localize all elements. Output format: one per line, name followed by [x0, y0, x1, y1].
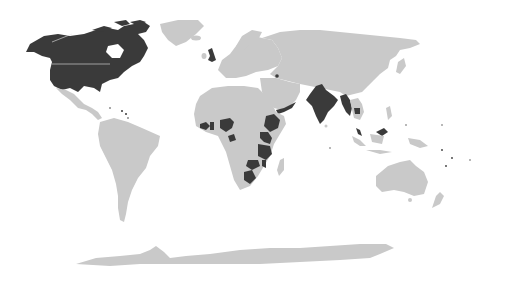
region-sri-lanka — [325, 125, 328, 128]
region-new-guinea — [408, 138, 428, 148]
region-iceland — [191, 36, 201, 41]
world-map — [0, 0, 508, 281]
region-japan — [396, 58, 406, 74]
region-uk[interactable] — [208, 48, 216, 62]
region-australia — [376, 160, 428, 196]
pacific-islands — [329, 124, 470, 167]
region-armenia[interactable] — [275, 74, 279, 78]
region-south-america — [98, 118, 160, 222]
region-antarctica — [76, 244, 394, 266]
region-philippines — [386, 106, 392, 120]
region-indonesia — [352, 134, 392, 154]
region-ireland — [202, 53, 207, 59]
region-mexico-central-america — [56, 88, 102, 120]
region-ghana[interactable] — [210, 122, 214, 130]
region-new-zealand — [432, 192, 444, 208]
caribbean-islands — [109, 107, 129, 119]
region-madagascar — [277, 158, 284, 176]
region-tasmania — [408, 198, 412, 202]
region-canada-usa[interactable] — [26, 22, 150, 92]
region-myanmar[interactable] — [340, 94, 352, 116]
region-greenland — [160, 20, 204, 46]
region-cambodia[interactable] — [354, 108, 360, 114]
